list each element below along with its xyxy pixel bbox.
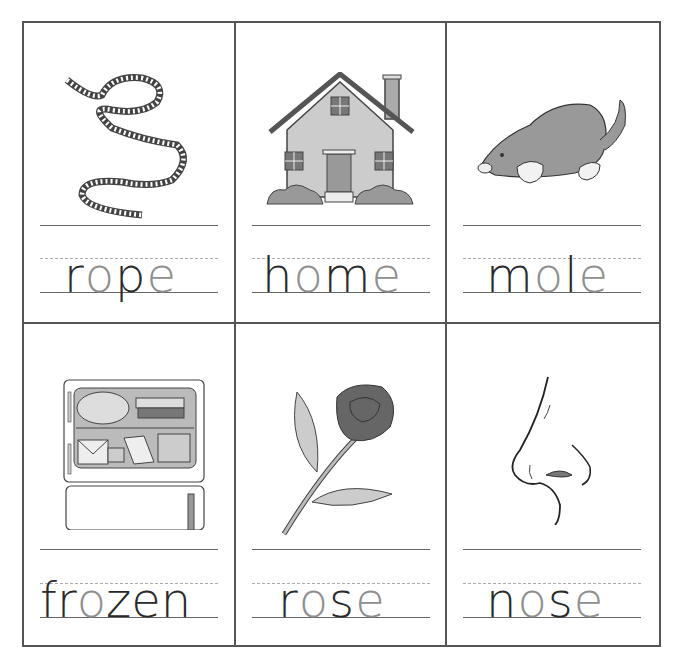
rose-icon bbox=[282, 382, 407, 537]
letter: o bbox=[299, 576, 329, 624]
letter: e bbox=[372, 251, 403, 299]
word-nose: nose bbox=[486, 576, 604, 624]
letter: f bbox=[40, 576, 57, 624]
word-mole: mole bbox=[486, 251, 609, 299]
letter: o bbox=[77, 576, 106, 624]
guide-line-top bbox=[463, 225, 641, 226]
letter: o bbox=[517, 576, 547, 624]
letter: z bbox=[106, 576, 131, 624]
letter: e bbox=[574, 576, 605, 624]
house-icon bbox=[265, 72, 415, 207]
guide-line-top bbox=[252, 549, 430, 550]
word-rope: rope bbox=[64, 251, 177, 299]
column-divider-1 bbox=[234, 21, 236, 647]
letter: e bbox=[147, 251, 178, 299]
mole-icon bbox=[475, 95, 630, 185]
word-frozen: frozen bbox=[40, 576, 191, 624]
guide-line-top bbox=[463, 549, 641, 550]
guide-line-top bbox=[252, 225, 430, 226]
nose-icon bbox=[510, 375, 600, 525]
letter: r bbox=[57, 576, 77, 624]
letter: m bbox=[324, 251, 372, 299]
letter: e bbox=[355, 576, 386, 624]
letter: n bbox=[486, 576, 517, 624]
row-divider bbox=[22, 322, 661, 324]
guide-line-top bbox=[40, 549, 218, 550]
letter: n bbox=[161, 576, 191, 624]
word-home: home bbox=[262, 251, 402, 299]
letter: r bbox=[278, 576, 299, 624]
letter: e bbox=[578, 251, 609, 299]
letter: h bbox=[262, 251, 293, 299]
rope-icon bbox=[62, 70, 197, 220]
letter: r bbox=[64, 251, 85, 299]
letter: p bbox=[115, 251, 146, 299]
letter: m bbox=[486, 251, 534, 299]
column-divider-2 bbox=[445, 21, 447, 647]
letter: o bbox=[293, 251, 323, 299]
word-rose: rose bbox=[278, 576, 386, 624]
letter: s bbox=[329, 576, 355, 624]
guide-line-top bbox=[40, 225, 218, 226]
letter: o bbox=[85, 251, 115, 299]
freezer-icon bbox=[58, 378, 206, 530]
letter: s bbox=[548, 576, 574, 624]
letter: e bbox=[131, 576, 161, 624]
letter: l bbox=[564, 251, 578, 299]
letter: o bbox=[534, 251, 564, 299]
